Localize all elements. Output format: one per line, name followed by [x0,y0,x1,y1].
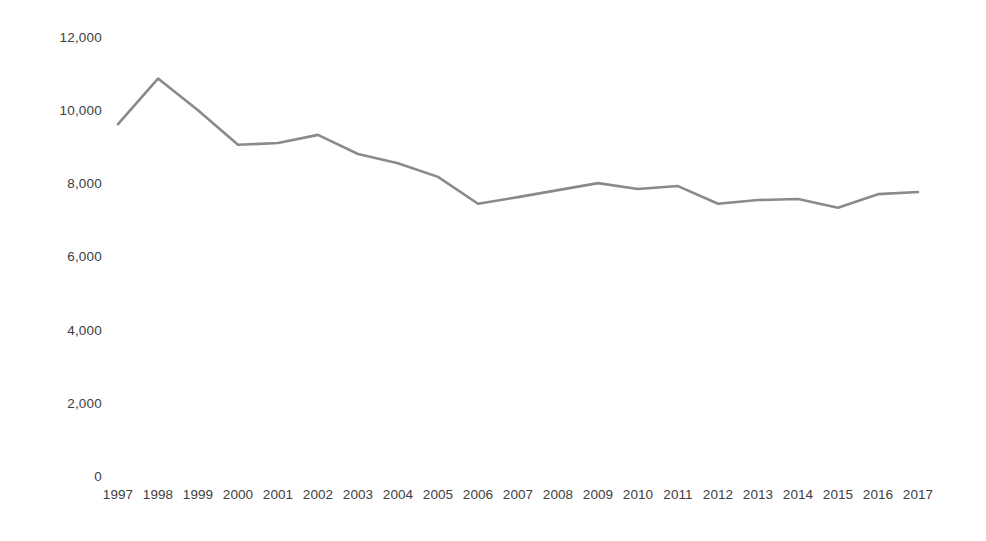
x-tick-label-2002: 2002 [298,487,338,503]
x-tick-label-2011: 2011 [658,487,698,503]
x-tick-label-2013: 2013 [738,487,778,503]
x-tick-label-2003: 2003 [338,487,378,503]
x-tick-label-2009: 2009 [578,487,618,503]
x-tick-label-2008: 2008 [538,487,578,503]
x-tick-label-2015: 2015 [818,487,858,503]
x-tick-label-2007: 2007 [498,487,538,503]
x-tick-label-2004: 2004 [378,487,418,503]
x-tick-label-2005: 2005 [418,487,458,503]
x-tick-label-2016: 2016 [858,487,898,503]
plot-area [0,0,986,541]
x-tick-label-1997: 1997 [98,487,138,503]
x-tick-label-2010: 2010 [618,487,658,503]
x-tick-label-2017: 2017 [898,487,938,503]
x-tick-label-2006: 2006 [458,487,498,503]
x-axis: 1997 1998 1999 2000 2001 2002 2003 2004 … [0,487,986,509]
x-tick-label-2012: 2012 [698,487,738,503]
x-tick-label-1999: 1999 [178,487,218,503]
line-chart: 12,000 10,000 8,000 6,000 4,000 2,000 0 … [0,0,986,541]
x-tick-label-1998: 1998 [138,487,178,503]
x-tick-label-2014: 2014 [778,487,818,503]
x-tick-label-2001: 2001 [258,487,298,503]
series-line [118,79,918,208]
series-line-svg [0,0,986,541]
x-tick-label-2000: 2000 [218,487,258,503]
